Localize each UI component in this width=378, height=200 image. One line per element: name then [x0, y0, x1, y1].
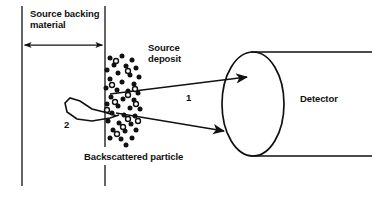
label-source-backing-material: Source backing material [30, 8, 99, 30]
source-deposit-particle-cloud [104, 54, 143, 148]
backscatter-track-path [65, 98, 119, 121]
label-track-two: 2 [64, 119, 69, 130]
label-track-one: 1 [186, 92, 191, 103]
label-detector: Detector [300, 93, 338, 104]
detector-aperture-ellipse [222, 52, 284, 156]
label-backscattered-particle: Backscattered particle [84, 151, 183, 162]
label-source-deposit: Source deposit [148, 42, 181, 64]
track-one-arrow [110, 77, 247, 94]
figure-canvas: Source backing material Source deposit D… [0, 0, 378, 200]
